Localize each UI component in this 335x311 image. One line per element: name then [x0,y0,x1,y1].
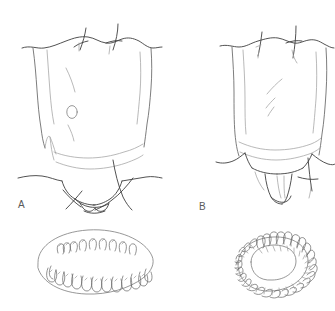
panel-a-body-drawing [18,24,162,213]
panel-a-hook-plate [38,230,153,294]
panel-b-hook-ring [235,232,317,298]
line-drawing-canvas: .ink { fill:none; stroke:#5c5c5c; stroke… [0,0,335,311]
panel-label-a: A [18,200,25,210]
panel-label-b: B [199,202,206,212]
illustration-plate: .ink { fill:none; stroke:#5c5c5c; stroke… [0,0,335,311]
panel-b-body-drawing [216,26,335,204]
